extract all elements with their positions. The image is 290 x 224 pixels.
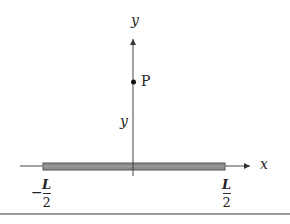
right-end-fraction: L 2 — [222, 178, 231, 209]
left-end-fraction: L 2 — [42, 178, 51, 209]
right-end-denominator: 2 — [222, 196, 230, 209]
fraction-bar — [223, 193, 231, 194]
right-end-numerator: L — [222, 178, 231, 191]
x-axis-label: x — [260, 157, 268, 171]
y-axis-label: y — [131, 13, 139, 27]
point-p-label: P — [141, 74, 150, 88]
bottom-divider — [0, 213, 290, 215]
distance-y-label: y — [120, 114, 128, 128]
left-end-minus: − — [31, 184, 43, 200]
left-end-numerator: L — [42, 178, 51, 191]
point-p-dot — [131, 80, 136, 85]
fraction-bar — [43, 193, 51, 194]
left-end-denominator: 2 — [42, 196, 50, 209]
